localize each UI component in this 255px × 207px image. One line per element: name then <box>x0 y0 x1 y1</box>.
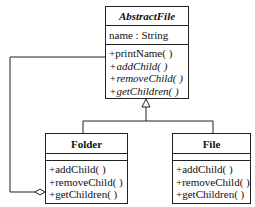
operations: +printName( ) +addChild( ) +removeChild(… <box>106 45 188 97</box>
op-removechild: +removeChild( ) <box>49 176 127 189</box>
class-name: Folder <box>46 134 127 154</box>
op-removechild: +removeChild( ) <box>109 72 188 85</box>
op-removechild: +removeChild( ) <box>176 176 250 189</box>
class-file: File +addChild( ) +removeChild( ) +getCh… <box>172 133 251 204</box>
class-folder: Folder +addChild( ) +removeChild( ) +get… <box>45 133 128 204</box>
attribute-name: name : String <box>106 26 188 45</box>
op-getchildren: +getChildren( ) <box>109 85 188 98</box>
attributes-empty <box>173 154 250 161</box>
op-getchildren: +getChildren( ) <box>49 188 127 201</box>
op-addchild: +addChild( ) <box>109 60 188 73</box>
class-name: AbstractFile <box>106 7 188 26</box>
attributes-empty <box>46 154 127 161</box>
operations: +addChild( ) +removeChild( ) +getChildre… <box>46 161 127 201</box>
operations: +addChild( ) +removeChild( ) +getChildre… <box>173 161 250 201</box>
class-abstractfile: AbstractFile name : String +printName( )… <box>105 6 189 99</box>
op-printname: +printName( ) <box>109 47 188 60</box>
op-getchildren: +getChildren( ) <box>176 188 250 201</box>
class-name: File <box>173 134 250 154</box>
aggregation-diamond-icon <box>35 189 45 195</box>
op-addchild: +addChild( ) <box>49 163 127 176</box>
generalization-arrow-icon <box>142 99 150 107</box>
op-addchild: +addChild( ) <box>176 163 250 176</box>
generalization-line-folder <box>83 121 213 133</box>
